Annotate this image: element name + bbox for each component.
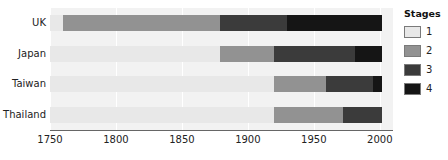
- x-axis-labels: 175018001850190019502000: [0, 133, 400, 149]
- bar-segment-stage-1: [50, 15, 63, 31]
- bar-segment-stage-1: [50, 76, 274, 92]
- x-axis-tick-1900: 1900: [235, 133, 260, 147]
- legend-swatch-4: [404, 83, 421, 95]
- x-axis-tick-1750: 1750: [37, 133, 62, 147]
- plot-area: [50, 8, 393, 130]
- bar-segment-stage-2: [274, 107, 343, 123]
- legend-label-1: 1: [426, 26, 432, 38]
- legend-items: 1234: [404, 24, 448, 97]
- bar-row: [50, 15, 393, 31]
- legend: Stages 1234: [404, 8, 448, 100]
- x-axis-tick-1850: 1850: [169, 133, 194, 147]
- legend-label-3: 3: [426, 64, 432, 76]
- y-axis-labels: UKJapanTaiwanThailand: [0, 8, 46, 130]
- legend-item-2[interactable]: 2: [404, 43, 448, 59]
- bar-row: [50, 76, 393, 92]
- bar-row: [50, 46, 393, 62]
- x-axis-line: [50, 130, 393, 131]
- bar-segment-stage-1: [50, 46, 220, 62]
- bar-segment-stage-3: [220, 15, 287, 31]
- bar-segment-stage-3: [274, 46, 354, 62]
- stacked-timeline-chart: UKJapanTaiwanThailand 175018001850190019…: [0, 0, 448, 160]
- x-axis-tick-1950: 1950: [301, 133, 326, 147]
- legend-item-4[interactable]: 4: [404, 81, 448, 97]
- bar-segment-stage-4: [373, 76, 382, 92]
- x-axis-tick-2000: 2000: [367, 133, 392, 147]
- y-axis-label-taiwan: Taiwan: [0, 78, 46, 90]
- bar-segment-stage-4: [287, 15, 382, 31]
- x-axis-tick-1800: 1800: [103, 133, 128, 147]
- legend-item-3[interactable]: 3: [404, 62, 448, 78]
- bar-segment-stage-2: [63, 15, 220, 31]
- bar-segment-stage-2: [274, 76, 325, 92]
- bar-segment-stage-3: [326, 76, 373, 92]
- bar-row: [50, 107, 393, 123]
- legend-item-1[interactable]: 1: [404, 24, 448, 40]
- y-axis-label-japan: Japan: [0, 48, 46, 60]
- legend-swatch-1: [404, 26, 421, 38]
- legend-label-2: 2: [426, 45, 432, 57]
- bar-segment-stage-3: [343, 107, 383, 123]
- bar-segment-stage-1: [50, 107, 274, 123]
- bar-segment-stage-4: [355, 46, 383, 62]
- bar-segment-stage-2: [220, 46, 274, 62]
- legend-swatch-2: [404, 45, 421, 57]
- legend-label-4: 4: [426, 83, 432, 95]
- y-axis-label-thailand: Thailand: [0, 109, 46, 121]
- legend-title: Stages: [404, 8, 448, 20]
- y-axis-label-uk: UK: [0, 17, 46, 29]
- legend-swatch-3: [404, 64, 421, 76]
